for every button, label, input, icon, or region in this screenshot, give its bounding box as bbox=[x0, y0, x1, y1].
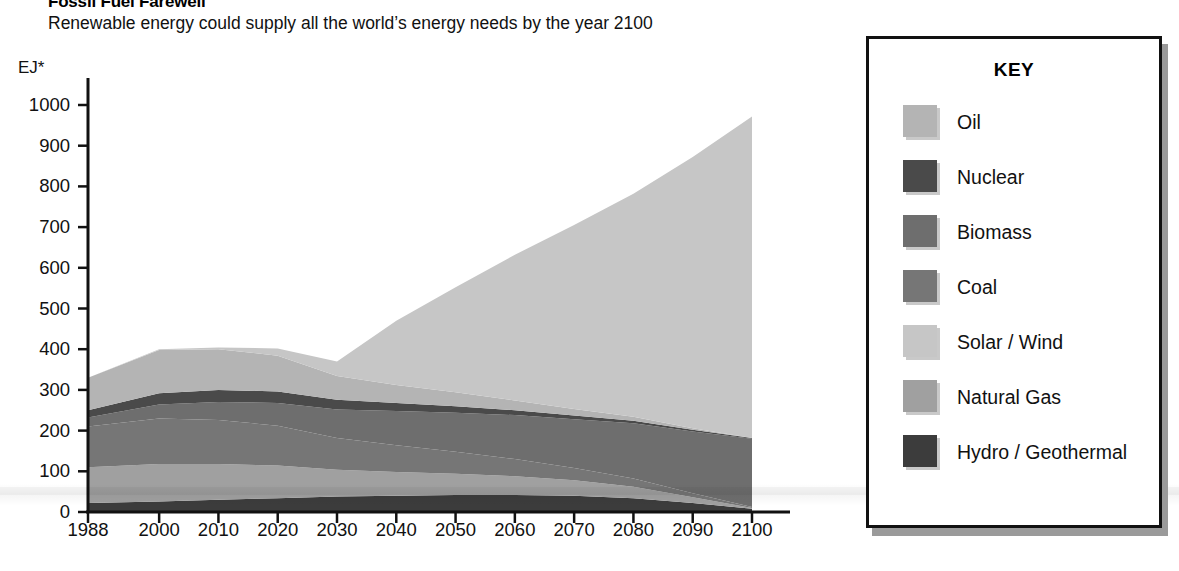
y-tick-label: 100 bbox=[8, 462, 70, 481]
legend-swatch bbox=[903, 435, 941, 471]
y-tick-label: 600 bbox=[8, 259, 70, 278]
legend-box: KEY OilNuclearBiomassCoalSolar / WindNat… bbox=[866, 36, 1162, 528]
y-tick-label: 0 bbox=[8, 503, 70, 522]
legend-item-label: Coal bbox=[957, 276, 997, 299]
chart-series-group bbox=[88, 116, 752, 512]
legend-swatch-color bbox=[903, 160, 937, 192]
y-tick-label: 900 bbox=[8, 137, 70, 156]
legend-item-list: OilNuclearBiomassCoalSolar / WindNatural… bbox=[869, 95, 1159, 480]
legend-swatch bbox=[903, 105, 941, 141]
legend-swatch bbox=[903, 380, 941, 416]
legend-swatch bbox=[903, 160, 941, 196]
legend-item-label: Nuclear bbox=[957, 166, 1024, 189]
stacked-area-chart bbox=[0, 0, 860, 571]
legend-item-label: Biomass bbox=[957, 221, 1032, 244]
legend-swatch-color bbox=[903, 270, 937, 302]
legend-swatch bbox=[903, 270, 941, 306]
legend-swatch-color bbox=[903, 215, 937, 247]
legend-swatch-color bbox=[903, 435, 937, 467]
legend-item-label: Solar / Wind bbox=[957, 331, 1063, 354]
legend-item-oil[interactable]: Oil bbox=[869, 95, 1159, 150]
y-tick-label: 500 bbox=[8, 300, 70, 319]
legend-item-biomass[interactable]: Biomass bbox=[869, 205, 1159, 260]
legend-item-hydro-geothermal[interactable]: Hydro / Geothermal bbox=[869, 425, 1159, 480]
legend-item-label: Hydro / Geothermal bbox=[957, 441, 1127, 464]
x-tick-label: 1988 bbox=[53, 521, 123, 540]
y-tick-label: 400 bbox=[8, 340, 70, 359]
legend-item-coal[interactable]: Coal bbox=[869, 260, 1159, 315]
y-tick-label: 800 bbox=[8, 177, 70, 196]
y-tick-label: 700 bbox=[8, 218, 70, 237]
legend-item-label: Natural Gas bbox=[957, 386, 1061, 409]
legend-item-natural-gas[interactable]: Natural Gas bbox=[869, 370, 1159, 425]
legend-item-solar-wind[interactable]: Solar / Wind bbox=[869, 315, 1159, 370]
y-axis-tick-labels: 10009008007006005004003002001000 bbox=[0, 0, 70, 571]
legend-swatch-color bbox=[903, 380, 937, 412]
legend-heading: KEY bbox=[869, 59, 1159, 81]
legend-swatch bbox=[903, 215, 941, 251]
y-tick-label: 300 bbox=[8, 381, 70, 400]
chart-plot-area: EJ* 10009008007006005004003002001000 198… bbox=[0, 0, 860, 571]
legend-swatch-color bbox=[903, 105, 937, 137]
y-tick-label: 1000 bbox=[8, 96, 70, 115]
y-tick-label: 200 bbox=[8, 422, 70, 441]
legend-item-nuclear[interactable]: Nuclear bbox=[869, 150, 1159, 205]
legend-swatch-color bbox=[903, 325, 937, 357]
legend-item-label: Oil bbox=[957, 111, 981, 134]
legend-swatch bbox=[903, 325, 941, 361]
x-tick-label: 2100 bbox=[717, 521, 787, 540]
